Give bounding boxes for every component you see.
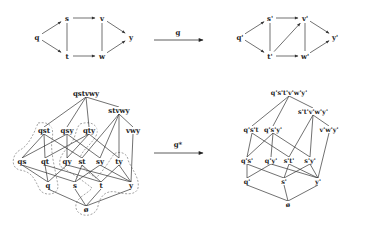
lattice-edge xyxy=(318,133,329,178)
graph-node-s: s' xyxy=(267,14,273,23)
graph-node-t: t' xyxy=(267,52,272,61)
lattice-edge xyxy=(86,189,131,206)
lattice-node-qs: qs xyxy=(18,157,27,166)
lattice-edge xyxy=(273,133,310,157)
mapping-arrow-g: g xyxy=(154,28,203,40)
lattice-edge xyxy=(247,164,271,178)
lattice-right: q's't'v'w'y's't'v'w'y'q's't'q's'y'v'w'y'… xyxy=(237,89,343,209)
lattice-edge xyxy=(284,185,288,201)
lattice-edge xyxy=(131,134,133,182)
lattice-node-q: q xyxy=(46,181,51,190)
lattice-edge xyxy=(67,97,86,127)
graph-g: qstvwy xyxy=(35,14,134,61)
lattice-node-qst: q's't' xyxy=(243,126,260,134)
lattice-edge xyxy=(44,134,82,158)
lattice-node-empty: ø xyxy=(84,205,89,214)
lattice-edge xyxy=(310,115,313,157)
lattice-edge xyxy=(22,165,48,182)
lattice-node-qs: q's' xyxy=(241,157,253,165)
graph-node-v: v xyxy=(99,14,105,23)
arrow-label-g: g xyxy=(176,28,181,37)
directed-edge xyxy=(310,21,329,33)
directed-edge xyxy=(245,40,264,52)
lattice-node-st: st xyxy=(78,157,86,166)
directed-edge xyxy=(245,22,264,34)
directed-edge xyxy=(42,22,61,34)
graph-node-q: q' xyxy=(236,33,243,42)
lattice-edge xyxy=(271,133,273,157)
directed-edge xyxy=(107,41,125,53)
lattice-edge xyxy=(48,165,67,182)
lattice-node-qty: qty xyxy=(83,126,96,135)
lattice-node-qsy: qsy xyxy=(61,126,75,135)
lattice-edge xyxy=(288,185,318,201)
lattice-node-ty: ty xyxy=(115,157,123,166)
lattice-edge xyxy=(45,165,101,182)
arrow-label-g-star: g* xyxy=(174,140,183,149)
lattice-node-stvwy: stvwy xyxy=(108,106,130,115)
lattice-node-top: q's't'v'w'y' xyxy=(271,89,307,97)
graph-node-y: y xyxy=(128,33,134,42)
lattice-edge xyxy=(289,96,313,108)
lattice-node-qv: qy xyxy=(63,157,73,166)
graph-node-v: v' xyxy=(301,14,308,23)
directed-edge xyxy=(107,21,125,33)
lattice-node-y: y' xyxy=(314,178,321,186)
directed-edge xyxy=(42,40,61,52)
graph-node-y: y' xyxy=(331,33,338,42)
lattice-edge xyxy=(101,165,119,182)
lattice-edge xyxy=(119,114,133,127)
lattice-node-s: s' xyxy=(281,178,287,186)
lattice-edge xyxy=(313,115,329,126)
lattice-edge xyxy=(252,96,289,126)
graph-node-w: w' xyxy=(300,52,309,61)
lattice-node-vwy: v'w'y' xyxy=(318,126,338,134)
lattice-edge xyxy=(67,165,131,182)
lattice-edge xyxy=(289,115,313,157)
graph-node-q: q xyxy=(35,33,40,42)
graph-g-prime: q's't'v'w'y' xyxy=(236,14,338,61)
lattice-node-qsy: q's'y' xyxy=(264,126,282,134)
lattice-node-sy: s'y' xyxy=(304,157,315,165)
lattice-edge xyxy=(100,165,131,182)
lattice-node-s: s xyxy=(73,181,77,190)
lattice-edge xyxy=(252,133,289,157)
diagram-canvas: qstvwy g q's't'v'w'y' qstvwystvwyqstqsyq… xyxy=(0,0,365,225)
lattice-edge xyxy=(67,134,89,158)
lattice-node-qy: q'y' xyxy=(265,157,277,165)
lattice-node-qstvwy: qstvwy xyxy=(73,89,100,98)
lattice-node-q: q' xyxy=(244,178,251,186)
directed-edge xyxy=(310,41,329,53)
graph-node-s: s xyxy=(65,14,69,23)
lattice-edge xyxy=(273,96,289,126)
graph-node-t: t xyxy=(65,52,69,61)
lattice-edge xyxy=(89,134,119,158)
lattice-edge xyxy=(44,97,86,127)
lattice-node-qt: qt xyxy=(41,157,50,166)
lattice-node-vwy: vwy xyxy=(125,126,141,135)
lattice-left: qstvwystvwyqstqsyqtyvwyqsqtqystsytyqstyø xyxy=(13,89,141,215)
lattice-node-sy: sy xyxy=(96,157,105,166)
graph-node-w: w xyxy=(98,52,106,61)
lattice-node-empty: ø xyxy=(286,201,291,209)
lattice-edge xyxy=(22,165,75,182)
lattice-edge xyxy=(67,134,100,158)
lattice-node-stvwy: s't'v'w'y' xyxy=(298,108,328,116)
lattice-node-st: s't' xyxy=(284,157,295,165)
lattice-edge xyxy=(247,185,288,201)
lattice-node-qst: qst xyxy=(38,126,51,135)
mapping-arrow-g-star: g* xyxy=(154,140,203,153)
directed-edge xyxy=(274,23,300,51)
lattice-edge xyxy=(100,114,119,158)
